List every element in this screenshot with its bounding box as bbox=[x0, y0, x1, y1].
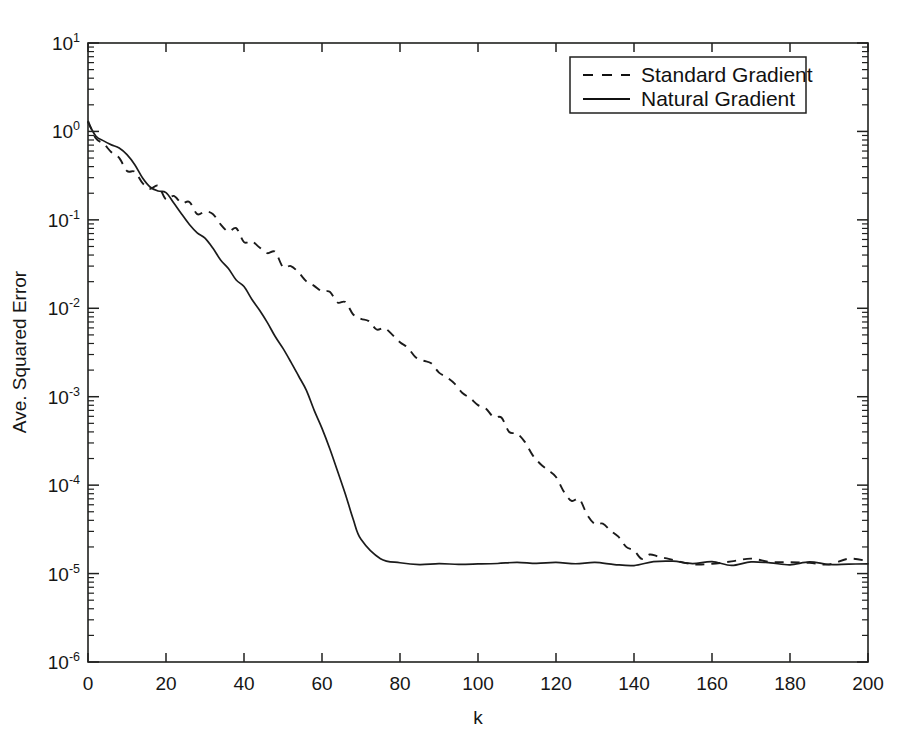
x-tick-label: 200 bbox=[852, 673, 884, 694]
legend-label-standard-gradient: Standard Gradient bbox=[641, 63, 813, 86]
x-tick-label: 20 bbox=[155, 673, 176, 694]
x-tick-label: 180 bbox=[774, 673, 806, 694]
legend[interactable]: Standard Gradient Natural Gradient bbox=[570, 57, 813, 113]
x-tick-label: 100 bbox=[462, 673, 494, 694]
legend-label-natural-gradient: Natural Gradient bbox=[641, 87, 795, 110]
x-tick-label: 0 bbox=[83, 673, 94, 694]
figure-container: 02040608010012014016018020010110010-110-… bbox=[0, 0, 901, 742]
chart-plot-area[interactable]: 02040608010012014016018020010110010-110-… bbox=[0, 0, 901, 742]
y-axis-title: Ave. Squared Error bbox=[9, 270, 30, 433]
x-axis-title: k bbox=[473, 707, 483, 728]
x-tick-label: 40 bbox=[233, 673, 254, 694]
x-tick-label: 140 bbox=[618, 673, 650, 694]
x-tick-label: 160 bbox=[696, 673, 728, 694]
x-tick-label: 60 bbox=[311, 673, 332, 694]
x-tick-label: 120 bbox=[540, 673, 572, 694]
x-tick-label: 80 bbox=[389, 673, 410, 694]
